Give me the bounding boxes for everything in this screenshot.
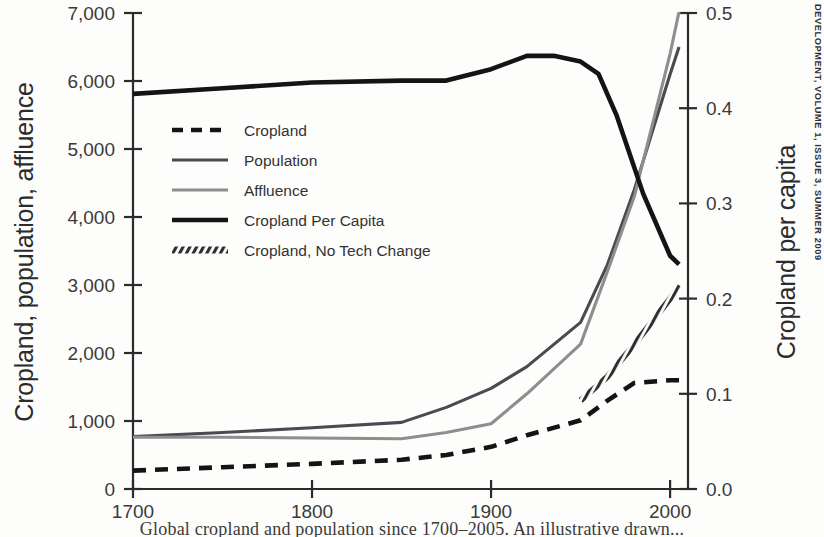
right-tick-label: 0.5 [706, 3, 732, 24]
left-tick-label: 2,000 [67, 343, 115, 364]
legend-item-label: Cropland, No Tech Change [244, 242, 431, 259]
legend-item-label: Cropland Per Capita [244, 212, 385, 229]
legend-item-label: Cropland [244, 122, 307, 139]
y2-axis-title: Cropland per capita [772, 145, 800, 360]
figure-caption: Global cropland and population since 170… [0, 519, 824, 537]
right-tick-label: 0.4 [706, 98, 733, 119]
left-tick-label: 3,000 [67, 275, 115, 296]
left-tick-label: 1,000 [67, 411, 115, 432]
left-tick-label: 0 [104, 479, 115, 500]
legend-item-label: Population [244, 152, 317, 169]
right-tick-label: 0.0 [706, 479, 732, 500]
legend-item-label: Affluence [244, 182, 308, 199]
y-axis-title: Cropland, population, affluence [10, 82, 38, 421]
journal-sidebar-text: DEVELOPMENT, VOLUME 1, ISSUE 3, SUMMER 2… [813, 4, 823, 261]
right-tick-label: 0.2 [706, 289, 732, 310]
left-tick-label: 6,000 [67, 71, 115, 92]
chart-canvas: 01,0002,0003,0004,0005,0006,0007,000 0.0… [0, 0, 824, 537]
right-tick-label: 0.1 [706, 384, 732, 405]
right-tick-label: 0.3 [706, 193, 732, 214]
left-tick-label: 7,000 [67, 3, 115, 24]
figure-container: 01,0002,0003,0004,0005,0006,0007,000 0.0… [0, 0, 824, 537]
left-tick-label: 4,000 [67, 207, 115, 228]
left-tick-label: 5,000 [67, 139, 115, 160]
